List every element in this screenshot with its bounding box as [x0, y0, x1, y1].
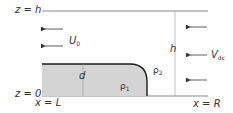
velocity-side-subscript: dc	[218, 54, 225, 61]
label-x-left: x = L	[35, 98, 61, 108]
density-gas-subscript: 2	[159, 69, 163, 76]
label-height: h	[170, 44, 176, 54]
liquid-film-region	[42, 64, 147, 96]
label-density-gas: ρ2	[153, 66, 163, 76]
density-liquid-subscript: 1	[126, 85, 130, 92]
label-density-liquid: ρ1	[120, 82, 130, 92]
label-thickness: d	[79, 71, 85, 81]
velocity-side-symbol: V	[211, 49, 218, 60]
velocity-main-subscript: 0	[76, 40, 80, 47]
label-velocity-main: U0	[69, 36, 80, 47]
label-x-right: x = R	[193, 99, 221, 109]
label-z-top: z = h	[15, 5, 41, 15]
label-velocity-side: Vdc	[211, 50, 225, 61]
